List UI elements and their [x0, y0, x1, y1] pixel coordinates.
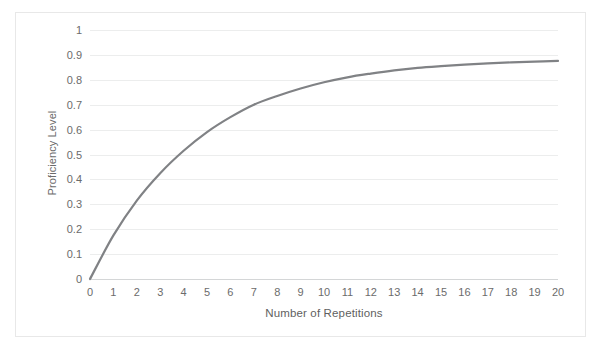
series-line-proficiency: [90, 61, 558, 279]
y-axis-tick-label: 0.4: [52, 173, 82, 185]
plot-area: [90, 30, 558, 279]
x-axis-title: Number of Repetitions: [90, 306, 558, 320]
y-axis-tick-label: 0.9: [52, 49, 82, 61]
x-axis-tick-label: 9: [289, 286, 313, 299]
x-axis-tick-label: 20: [546, 286, 570, 299]
x-axis-tick-label: 8: [265, 286, 289, 299]
x-axis-tick-label: 17: [476, 286, 500, 299]
y-axis-tick-label: 0.8: [52, 74, 82, 86]
x-axis-tick-label: 1: [101, 286, 125, 299]
y-axis-tick-label: 0.1: [52, 248, 82, 260]
x-axis-tick-label: 2: [125, 286, 149, 299]
x-axis-tick-label: 6: [218, 286, 242, 299]
learning-curve-chart: Proficiency Level 00.10.20.30.40.50.60.7…: [0, 0, 601, 360]
x-axis-tick-label: 5: [195, 286, 219, 299]
x-axis-tick-label: 16: [452, 286, 476, 299]
y-axis-tick-label: 0.5: [52, 149, 82, 161]
x-axis-tick-label: 12: [359, 286, 383, 299]
x-axis-tick-label: 0: [78, 286, 102, 299]
x-axis-tick-label: 18: [499, 286, 523, 299]
y-axis-tick-label: 0.2: [52, 223, 82, 235]
y-axis-tick-label: 1: [52, 24, 82, 36]
x-axis-tick-label: 13: [382, 286, 406, 299]
x-axis-tick-label: 19: [523, 286, 547, 299]
y-axis-tick-labels: 00.10.20.30.40.50.60.70.80.91: [52, 22, 82, 288]
x-axis-tick-label: 4: [172, 286, 196, 299]
y-axis-tick-label: 0.3: [52, 198, 82, 210]
x-axis-tick-label: 11: [335, 286, 359, 299]
y-axis-tick-label: 0.6: [52, 124, 82, 136]
y-axis-tick-label: 0: [52, 273, 82, 285]
x-axis-tick-label: 7: [242, 286, 266, 299]
x-axis-tick-label: 14: [406, 286, 430, 299]
gridline: [90, 279, 558, 280]
x-axis-tick-label: 10: [312, 286, 336, 299]
proficiency-curve: [90, 30, 558, 279]
x-axis-tick-label: 3: [148, 286, 172, 299]
x-axis-tick-labels: 01234567891011121314151617181920: [90, 286, 558, 300]
y-axis-tick-label: 0.7: [52, 99, 82, 111]
x-axis-tick-label: 15: [429, 286, 453, 299]
